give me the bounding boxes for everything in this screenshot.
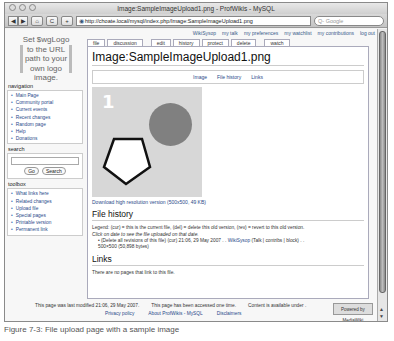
page-viewport: WikiSysop my talk my preferences my watc… (5, 29, 377, 321)
logo-line: to the URL (25, 45, 67, 55)
personal-link-logout[interactable]: log out (360, 30, 375, 36)
url-text: http://choate.local/mysql/index.php/Imag… (85, 18, 253, 24)
sidebar-item-current-events[interactable]: Current events (11, 106, 79, 113)
circle-shape (149, 103, 192, 146)
page-title: Image:SampleImageUpload1.png (92, 50, 364, 66)
scroll-up-arrow-icon[interactable]: ▲ (379, 306, 384, 312)
footer-disclaimers-link[interactable]: Disclaimers (217, 311, 242, 316)
toc-link-file-history[interactable]: File history (217, 74, 241, 80)
sidebar-item-community-portal[interactable]: Community portal (11, 99, 79, 106)
personal-link-talk[interactable]: my talk (222, 30, 238, 36)
forward-button[interactable]: ▶ (18, 16, 28, 26)
toc-link-image[interactable]: Image (193, 74, 207, 80)
content-area: Image:SampleImageUpload1.png Image File … (87, 46, 369, 299)
sample-image[interactable]: 1 (92, 87, 202, 197)
personal-links: WikiSysop my talk my preferences my watc… (193, 30, 375, 36)
site-logo[interactable]: Set $wgLogo to the URL path to your own … (13, 35, 79, 77)
address-bar[interactable]: ◉http://choate.local/mysql/index.php/Ima… (76, 16, 311, 26)
vertical-scrollbar[interactable]: ▲ ▼ (377, 29, 387, 321)
footer: This page was last modified 21:06, 29 Ma… (5, 301, 377, 319)
footer-accessed: This page has been accessed one time. (151, 303, 236, 308)
browser-toolbar: ◀ ▶ ⌂ C + ◉http://choate.local/mysql/ind… (5, 14, 387, 28)
logo-line: Set $wgLogo (13, 35, 79, 45)
image-number: 1 (102, 91, 115, 112)
add-bookmark-button[interactable]: + (61, 16, 73, 26)
personal-link-contributions[interactable]: my contributions (318, 30, 354, 36)
toc-link-links[interactable]: Links (251, 74, 263, 80)
image-toc: Image File history Links (92, 70, 364, 84)
tab-file[interactable]: file (87, 39, 105, 46)
sidebar-item-help[interactable]: Help (11, 128, 79, 135)
tab-watch[interactable]: watch (264, 39, 289, 46)
legend-text: Legend: (cur) = this is the current file… (92, 224, 364, 231)
footer-privacy-link[interactable]: Privacy policy (105, 311, 134, 316)
powered-by-mediawiki-badge[interactable]: Powered by MediaWiki (333, 303, 373, 315)
personal-link-watchlist[interactable]: my watchlist (284, 30, 311, 36)
navigation-heading: navigation (8, 83, 83, 89)
personal-link-user[interactable]: WikiSysop (193, 30, 216, 36)
footer-content: Content is available under . (248, 303, 306, 308)
history-entry-text[interactable]: (Delete all revisions of this file) (cur… (101, 238, 226, 243)
sidebar-item-recent-changes[interactable]: Recent changes (11, 114, 79, 121)
footer-about-link[interactable]: About ProfWikis - MySQL (148, 311, 202, 316)
personal-link-preferences[interactable]: my preferences (244, 30, 278, 36)
toolbox-item-upload-file[interactable]: Upload file (11, 205, 79, 212)
history-entry: • (Delete all revisions of this file) (c… (98, 238, 364, 250)
tab-history[interactable]: history (173, 39, 200, 46)
tab-discussion[interactable]: discussion (107, 39, 142, 46)
sidebar-item-main-page[interactable]: Main Page (11, 92, 79, 99)
toolbox-item-special-pages[interactable]: Special pages (11, 212, 79, 219)
globe-icon: ◉ (79, 18, 84, 24)
toolbox-heading: toolbox (8, 181, 83, 187)
file-history-heading: File history (92, 209, 364, 221)
logo-line: path to your (25, 54, 67, 64)
logo-line: own logo (25, 64, 67, 74)
toolbox-item-permanent-link[interactable]: Permanent link (11, 226, 79, 233)
history-user-links[interactable]: (Talk | contribs | block) . . (251, 238, 304, 243)
home-button[interactable]: ⌂ (31, 16, 43, 26)
close-window-button[interactable] (9, 4, 16, 11)
tab-delete[interactable]: delete (231, 39, 257, 46)
footer-modified: This page was last modified 21:06, 29 Ma… (35, 303, 139, 308)
links-heading: Links (92, 254, 364, 266)
scrollbar-thumb[interactable] (379, 31, 386, 293)
tab-protect[interactable]: protect (202, 39, 229, 46)
window-title: Image:SampleImageUpload1.png - ProfWikis… (5, 3, 387, 14)
sidebar-item-random-page[interactable]: Random page (11, 121, 79, 128)
reload-button[interactable]: C (46, 16, 58, 26)
page-tabs: file discussion edit history protect del… (87, 39, 290, 46)
browser-window: Image:SampleImageUpload1.png - ProfWikis… (4, 2, 388, 322)
sidebar: navigation Main Page Community portal Cu… (7, 81, 83, 236)
window-controls (9, 4, 36, 11)
scroll-down-arrow-icon[interactable]: ▼ (379, 313, 384, 319)
tab-edit[interactable]: edit (151, 39, 171, 46)
history-size: 500×500 (50,898 bytes) (98, 244, 149, 249)
figure-caption: Figure 7-3: File upload page with a samp… (4, 325, 179, 334)
title-bar: Image:SampleImageUpload1.png - ProfWikis… (5, 3, 387, 14)
toolbox-portlet: What links here Related changes Upload f… (7, 188, 83, 235)
toolbox-item-what-links-here[interactable]: What links here (11, 190, 79, 197)
click-hint: Click on date to see the file uploaded o… (92, 232, 199, 237)
logo-box: to the URL path to your own logo (20, 45, 72, 74)
back-button[interactable]: ◀ (8, 16, 18, 26)
links-text: There are no pages that link to this fil… (92, 269, 364, 276)
toolbox-item-printable-version[interactable]: Printable version (11, 219, 79, 226)
go-button[interactable]: Go (24, 167, 39, 175)
search-heading: search (8, 146, 83, 152)
search-button[interactable]: Search (42, 167, 66, 175)
toolbox-item-related-changes[interactable]: Related changes (11, 198, 79, 205)
minimize-window-button[interactable] (19, 4, 26, 11)
zoom-window-button[interactable] (29, 4, 36, 11)
navigation-portlet: Main Page Community portal Current event… (7, 90, 83, 144)
search-portlet: Go Search (7, 153, 83, 179)
history-user-link[interactable]: WikiSysop (228, 238, 250, 243)
search-field[interactable]: Q- Google (314, 16, 384, 26)
pentagon-shape (102, 137, 154, 187)
sidebar-item-donations[interactable]: Donations (11, 135, 79, 142)
download-link[interactable]: Download high resolution version (500x50… (92, 199, 364, 205)
sidebar-search-input[interactable] (11, 157, 79, 165)
